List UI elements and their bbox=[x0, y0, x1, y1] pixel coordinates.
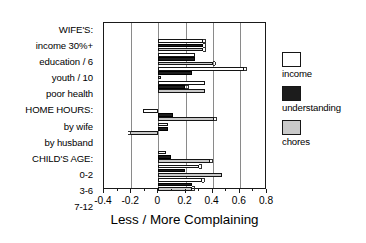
legend-item: income bbox=[282, 52, 366, 79]
bar-income bbox=[158, 123, 168, 127]
bar-row bbox=[104, 120, 265, 134]
legend-swatch-understanding bbox=[282, 86, 301, 101]
bar-income bbox=[158, 53, 195, 57]
y-axis-label: poor health bbox=[0, 86, 98, 102]
bar-income bbox=[158, 67, 244, 71]
x-tick bbox=[185, 189, 186, 193]
x-tick-label: -0.2 bbox=[121, 195, 139, 206]
bar-row bbox=[104, 79, 265, 93]
bar-row bbox=[104, 51, 265, 65]
bar-rows bbox=[104, 23, 265, 188]
bar-income bbox=[158, 39, 203, 43]
legend-label: chores bbox=[282, 136, 366, 147]
x-tick-label: 0.2 bbox=[177, 195, 191, 206]
legend-swatch-income bbox=[282, 52, 301, 67]
bar-understanding bbox=[158, 155, 170, 159]
legend-swatch-chores bbox=[282, 120, 301, 135]
x-minor-tick bbox=[225, 189, 226, 191]
bar-row bbox=[104, 65, 265, 79]
legend-label: income bbox=[282, 68, 366, 79]
bar-understanding bbox=[158, 57, 195, 61]
legend-item: chores bbox=[282, 120, 366, 147]
bar-row-header bbox=[104, 134, 265, 148]
y-axis-label: by wife bbox=[0, 119, 98, 135]
x-tick-label: 0.6 bbox=[232, 195, 246, 206]
chart-figure: WIFE'S: income 30%+ education / 6 youth … bbox=[0, 0, 366, 243]
y-axis-category-labels: WIFE'S: income 30%+ education / 6 youth … bbox=[0, 22, 98, 215]
error-bar-income bbox=[199, 165, 202, 169]
x-tick bbox=[157, 189, 158, 193]
x-minor-tick bbox=[117, 189, 118, 191]
x-tick bbox=[239, 189, 240, 193]
error-bar-income bbox=[202, 178, 205, 182]
x-tick-label: 0.8 bbox=[259, 195, 273, 206]
bar-income bbox=[158, 165, 199, 169]
y-axis-label: youth / 10 bbox=[0, 70, 98, 86]
error-bar-income bbox=[244, 67, 247, 71]
y-axis-label: WIFE'S: bbox=[0, 22, 98, 38]
bar-row-header bbox=[104, 23, 265, 37]
legend-item: understanding bbox=[282, 86, 366, 113]
x-tick-label: -0.4 bbox=[94, 195, 112, 206]
bar-understanding bbox=[158, 169, 185, 173]
x-tick bbox=[266, 189, 267, 193]
x-minor-tick bbox=[252, 189, 253, 191]
x-axis-tick-labels: -0.4-0.200.20.40.60.8 bbox=[0, 195, 366, 209]
bar-understanding bbox=[158, 183, 192, 187]
bar-row bbox=[104, 162, 265, 176]
y-axis-label: HOME HOURS: bbox=[0, 102, 98, 118]
bar-income bbox=[143, 109, 158, 113]
legend-label: understanding bbox=[282, 102, 366, 113]
x-minor-tick bbox=[198, 189, 199, 191]
bar-income bbox=[158, 178, 201, 182]
bar-understanding bbox=[158, 44, 203, 48]
bar-understanding bbox=[158, 71, 192, 75]
x-tick bbox=[212, 189, 213, 193]
bar-row bbox=[104, 148, 265, 162]
x-axis-title: Less / More Complaining bbox=[103, 212, 266, 227]
x-tick-label: 0 bbox=[154, 195, 160, 206]
plot-area bbox=[103, 22, 266, 189]
bar-row bbox=[104, 107, 265, 121]
x-tick bbox=[103, 189, 104, 193]
chart-legend: income understanding chores bbox=[282, 52, 366, 154]
y-axis-label: income 30%+ bbox=[0, 38, 98, 54]
bar-row bbox=[104, 37, 265, 51]
x-tick-label: 0.4 bbox=[205, 195, 219, 206]
x-axis-ticks bbox=[103, 189, 266, 194]
bar-income bbox=[158, 151, 166, 155]
bar-understanding bbox=[158, 127, 168, 131]
bar-row bbox=[104, 176, 265, 190]
y-axis-label: 0-2 bbox=[0, 167, 98, 183]
y-axis-label: by husband bbox=[0, 135, 98, 151]
x-tick bbox=[130, 189, 131, 193]
x-minor-tick bbox=[144, 189, 145, 191]
bar-income bbox=[158, 81, 204, 85]
y-axis-label: education / 6 bbox=[0, 54, 98, 70]
y-axis-label: CHILD'S AGE: bbox=[0, 151, 98, 167]
error-bar-understanding bbox=[186, 85, 189, 89]
bar-understanding bbox=[158, 85, 185, 89]
bar-understanding bbox=[158, 113, 173, 117]
x-minor-tick bbox=[171, 189, 172, 191]
bar-row-header bbox=[104, 93, 265, 107]
